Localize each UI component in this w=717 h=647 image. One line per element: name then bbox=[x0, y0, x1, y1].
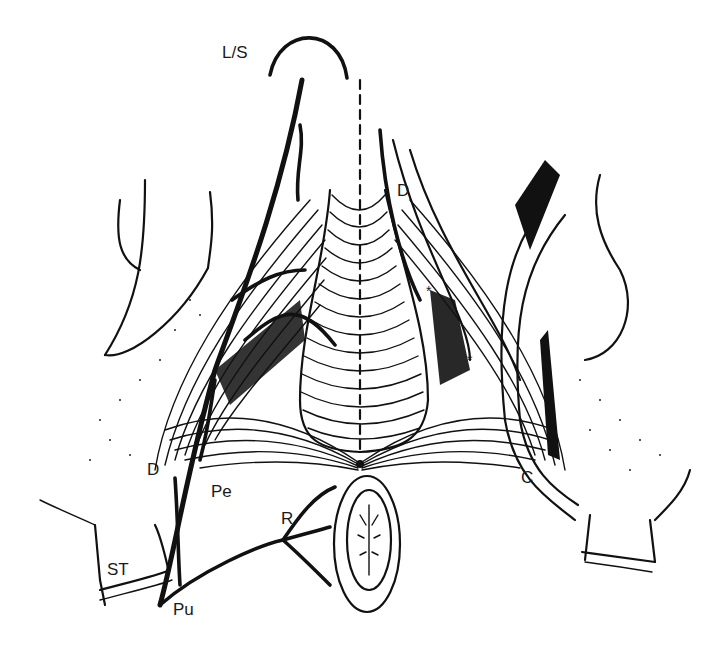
anatomical-diagram: L/S D * * D Pe R C ST Pu bbox=[0, 0, 717, 647]
label-pe: Pe bbox=[211, 482, 232, 501]
left-levator-muscle bbox=[105, 180, 326, 470]
label-st: ST bbox=[107, 560, 129, 579]
label-c: C bbox=[521, 468, 533, 487]
label-d-upper: D bbox=[397, 181, 409, 200]
label-pu: Pu bbox=[173, 600, 194, 619]
label-ls: L/S bbox=[222, 43, 248, 62]
label-star-lower: * bbox=[467, 352, 473, 368]
left-tissue-flap bbox=[40, 500, 172, 605]
anal-canal bbox=[334, 476, 400, 612]
stippling bbox=[89, 299, 661, 471]
ls-arc bbox=[270, 38, 347, 78]
right-levator-muscle bbox=[393, 140, 628, 470]
labels: L/S D * * D Pe R C ST Pu bbox=[107, 43, 533, 619]
right-cord bbox=[501, 160, 578, 520]
label-r: R bbox=[281, 509, 293, 528]
right-tissue-flap bbox=[582, 470, 690, 572]
label-star-upper: * bbox=[426, 283, 432, 299]
label-d-lower: D bbox=[147, 460, 159, 479]
